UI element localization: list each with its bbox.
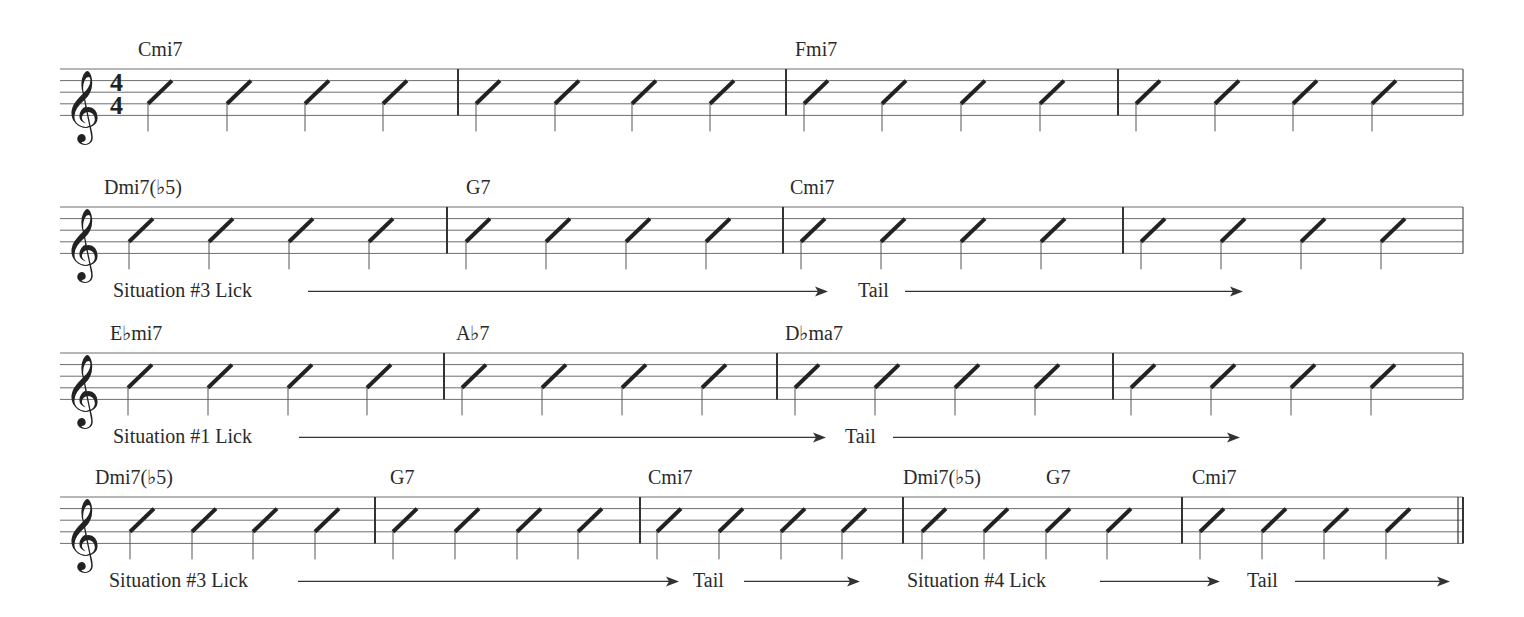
- chord-symbol: Dmi7(♭5): [104, 176, 182, 199]
- phrase-label: Situation #1 Lick: [113, 425, 252, 447]
- phrase-label: Tail: [1247, 569, 1278, 591]
- phrase-label: Situation #4 Lick: [907, 569, 1046, 591]
- staff-system: 𝄞Dmi7(♭5)G7Cmi7Situation #3 LickTail: [60, 176, 1463, 301]
- phrase-label: Tail: [858, 279, 889, 301]
- treble-clef-icon: 𝄞: [64, 353, 101, 429]
- chord-symbol: Fmi7: [795, 38, 837, 60]
- phrase-label: Tail: [845, 425, 876, 447]
- treble-clef-icon: 𝄞: [64, 207, 101, 283]
- staff-system: 𝄞44Cmi7Fmi7: [60, 38, 1463, 145]
- chord-symbol: G7: [390, 466, 414, 488]
- chord-symbol: Cmi7: [790, 176, 834, 198]
- chord-symbol: Cmi7: [138, 38, 182, 60]
- treble-clef-icon: 𝄞: [64, 69, 101, 145]
- staff-system: 𝄞E♭mi7A♭7D♭ma7Situation #1 LickTail: [60, 322, 1463, 447]
- time-signature-bottom: 4: [110, 91, 123, 120]
- chord-symbol: Dmi7(♭5): [903, 466, 981, 489]
- chord-symbol: E♭mi7: [110, 322, 162, 344]
- chord-symbol: Dmi7(♭5): [95, 466, 173, 489]
- phrase-label: Situation #3 Lick: [109, 569, 248, 591]
- chord-symbol: A♭7: [456, 322, 489, 344]
- chord-symbol: Cmi7: [648, 466, 692, 488]
- chord-symbol: G7: [1046, 466, 1070, 488]
- chord-symbol: D♭ma7: [785, 322, 843, 344]
- lead-sheet: 𝄞44Cmi7Fmi7𝄞Dmi7(♭5)G7Cmi7Situation #3 L…: [0, 0, 1524, 617]
- phrase-label: Situation #3 Lick: [113, 279, 252, 301]
- phrase-label: Tail: [693, 569, 724, 591]
- staff-system: 𝄞Dmi7(♭5)G7Cmi7Dmi7(♭5)G7Cmi7Situation #…: [60, 466, 1463, 591]
- treble-clef-icon: 𝄞: [64, 497, 101, 573]
- chord-symbol: G7: [466, 176, 490, 198]
- chord-symbol: Cmi7: [1192, 466, 1236, 488]
